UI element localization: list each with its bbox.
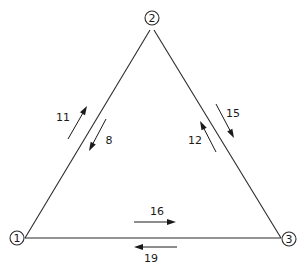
flow-arrow-12-head xyxy=(200,121,207,130)
flow-group: 11 8 12 15 16 xyxy=(56,104,240,265)
flow-arrow-11 xyxy=(68,106,87,139)
flow-arrow-15-head xyxy=(227,129,234,138)
flow-label-8: 8 xyxy=(106,134,113,147)
flow-arrow-16 xyxy=(134,219,176,225)
flow-label-19: 19 xyxy=(144,252,158,265)
flow-arrow-19-head xyxy=(134,244,143,250)
flow-arrow-12 xyxy=(200,121,216,152)
flow-arrow-11-shaft xyxy=(68,112,84,139)
diagram-canvas: 11 8 12 15 16 xyxy=(0,0,305,274)
flow-arrow-16-head xyxy=(167,219,176,225)
node-1-label: 1 xyxy=(14,232,21,245)
flow-arrow-19 xyxy=(134,244,177,250)
flow-label-15: 15 xyxy=(226,107,240,120)
flow-label-11: 11 xyxy=(56,111,70,124)
flow-label-12: 12 xyxy=(188,134,202,147)
node-3-label: 3 xyxy=(286,233,293,246)
flow-arrow-8-head xyxy=(89,142,96,151)
node-2[interactable]: 2 xyxy=(145,11,159,25)
node-3[interactable]: 3 xyxy=(282,232,296,246)
edge-2-3 xyxy=(154,30,281,238)
flow-arrow-12-shaft xyxy=(203,127,216,152)
flow-graph-diagram: 11 8 12 15 16 xyxy=(0,0,305,274)
flow-label-16: 16 xyxy=(150,205,164,218)
node-2-label: 2 xyxy=(149,12,156,25)
flow-arrow-11-head xyxy=(80,106,87,115)
flow-arrow-8 xyxy=(89,119,106,151)
node-1[interactable]: 1 xyxy=(10,231,24,245)
edge-1-2 xyxy=(25,30,150,238)
